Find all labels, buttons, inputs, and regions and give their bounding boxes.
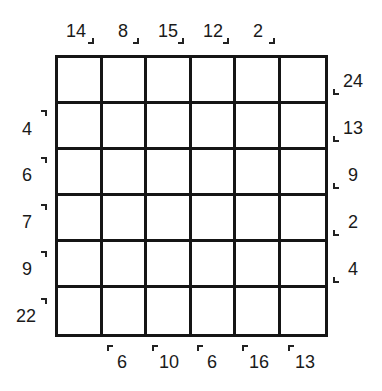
bottom-clue-1: 6: [117, 353, 127, 371]
top-clue-5: 2: [253, 22, 263, 40]
grid-cell[interactable]: [58, 288, 103, 334]
grid-cell[interactable]: [192, 288, 237, 334]
right-clue-3: 9: [348, 166, 358, 184]
left-clue-5: 22: [16, 307, 36, 325]
grid-cell[interactable]: [103, 242, 148, 288]
right-clue-1: 24: [343, 72, 363, 90]
bottom-clue-3: 6: [207, 353, 217, 371]
grid-cell[interactable]: [236, 58, 281, 104]
top-clue-1-marker: [88, 38, 94, 44]
right-clue-3-marker: [333, 183, 339, 189]
right-clue-5-marker: [333, 277, 339, 283]
top-clue-2: 8: [118, 22, 128, 40]
bottom-clue-4: 16: [249, 353, 269, 371]
right-clue-5: 4: [348, 260, 358, 278]
grid-cell[interactable]: [103, 58, 148, 104]
grid-cell[interactable]: [147, 58, 192, 104]
bottom-clue-5-marker: [288, 345, 294, 351]
left-clue-2-marker: [41, 157, 47, 163]
top-clue-3: 15: [158, 22, 178, 40]
bottom-clue-2: 10: [159, 353, 179, 371]
right-clue-4-marker: [333, 230, 339, 236]
left-clue-4-marker: [41, 251, 47, 257]
left-clue-1-marker: [41, 110, 47, 116]
bottom-clue-2-marker: [152, 345, 158, 351]
grid-cell[interactable]: [147, 196, 192, 242]
grid-cell[interactable]: [281, 58, 326, 104]
grid-cell[interactable]: [281, 104, 326, 150]
grid-cell[interactable]: [281, 150, 326, 196]
top-clue-3-marker: [178, 38, 184, 44]
grid-cell[interactable]: [236, 150, 281, 196]
bottom-clue-5: 13: [295, 353, 315, 371]
grid-cell[interactable]: [147, 288, 192, 334]
top-clue-4: 12: [203, 22, 223, 40]
bottom-clue-1-marker: [107, 345, 113, 351]
grid-cell[interactable]: [281, 196, 326, 242]
top-clue-4-marker: [223, 38, 229, 44]
grid-cell[interactable]: [58, 242, 103, 288]
grid-cell[interactable]: [147, 104, 192, 150]
bottom-clue-4-marker: [242, 345, 248, 351]
puzzle-grid: [55, 55, 328, 337]
grid-cell[interactable]: [58, 150, 103, 196]
grid-cell[interactable]: [58, 196, 103, 242]
right-clue-1-marker: [333, 89, 339, 95]
right-clue-2: 13: [343, 119, 363, 137]
left-clue-2: 6: [22, 166, 32, 184]
grid-cell[interactable]: [147, 150, 192, 196]
left-clue-3-marker: [41, 204, 47, 210]
grid-cell[interactable]: [103, 196, 148, 242]
top-clue-5-marker: [269, 38, 275, 44]
top-clue-1: 14: [66, 22, 86, 40]
grid-cell[interactable]: [236, 242, 281, 288]
bottom-clue-3-marker: [197, 345, 203, 351]
grid-cell[interactable]: [192, 104, 237, 150]
grid-cell[interactable]: [58, 104, 103, 150]
grid-cell[interactable]: [281, 288, 326, 334]
top-clue-2-marker: [133, 38, 139, 44]
left-clue-4: 9: [22, 260, 32, 278]
grid-cell[interactable]: [58, 58, 103, 104]
grid-cell[interactable]: [192, 58, 237, 104]
grid-cell[interactable]: [192, 150, 237, 196]
grid-cell[interactable]: [103, 150, 148, 196]
grid-cell[interactable]: [147, 242, 192, 288]
left-clue-3: 7: [22, 213, 32, 231]
left-clue-1: 4: [22, 120, 32, 138]
grid-cell[interactable]: [281, 242, 326, 288]
grid-cell[interactable]: [192, 242, 237, 288]
grid-cell[interactable]: [103, 288, 148, 334]
grid-cell[interactable]: [236, 288, 281, 334]
left-clue-5-marker: [41, 298, 47, 304]
grid-cell[interactable]: [236, 196, 281, 242]
right-clue-2-marker: [333, 136, 339, 142]
grid-cell[interactable]: [236, 104, 281, 150]
grid-cell[interactable]: [103, 104, 148, 150]
right-clue-4: 2: [348, 213, 358, 231]
grid-cell[interactable]: [192, 196, 237, 242]
